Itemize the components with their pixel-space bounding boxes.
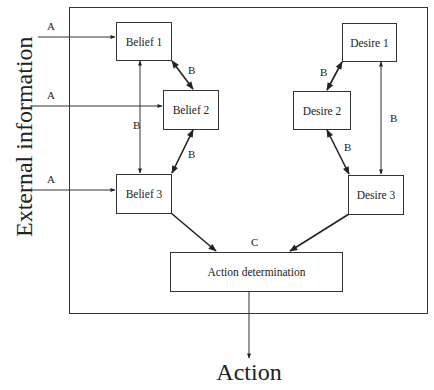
edge-label-c: C <box>251 236 258 248</box>
edge-label-b-belief1-belief2: B <box>188 64 195 76</box>
node-desire-1: Desire 1 <box>342 23 397 62</box>
edge-label-b-desire1-desire3: B <box>390 112 397 124</box>
edge-label-a2: A <box>47 89 55 101</box>
node-belief-3: Belief 3 <box>116 174 172 214</box>
edge-label-b-belief2-belief3: B <box>188 148 195 160</box>
node-desire-3: Desire 3 <box>348 175 404 215</box>
edge-label-b-belief1-belief3: B <box>133 119 140 131</box>
node-belief-1: Belief 1 <box>116 22 172 61</box>
node-belief-2: Belief 2 <box>163 90 219 130</box>
edge-label-a3: A <box>47 173 55 185</box>
node-action-determination: Action determination <box>170 252 343 292</box>
edge-label-b-desire2-desire3: B <box>344 141 351 153</box>
external-information-label: External information <box>8 37 40 237</box>
edge-label-a1: A <box>47 20 55 32</box>
edge-label-b-desire1-desire2: B <box>320 66 327 78</box>
action-output-label: Action <box>199 359 299 386</box>
node-desire-2: Desire 2 <box>293 91 351 130</box>
